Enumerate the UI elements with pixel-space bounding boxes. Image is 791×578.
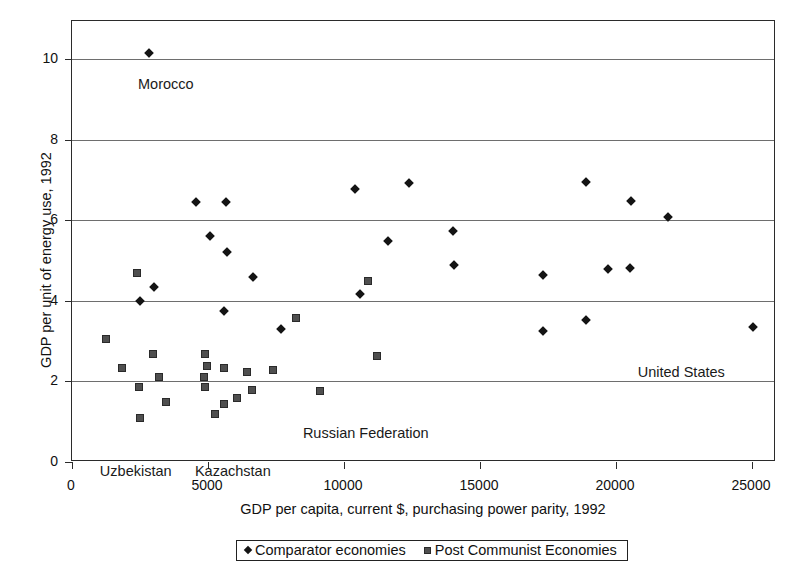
data-point — [248, 386, 256, 394]
y-axis-tick-label-2: 2 — [0, 373, 58, 387]
data-point — [149, 283, 159, 293]
data-point — [135, 383, 143, 391]
legend-label-comparator: Comparator economies — [255, 543, 406, 558]
gridline-y-10 — [72, 59, 774, 60]
data-point — [581, 177, 591, 187]
data-point — [748, 322, 758, 332]
data-point — [162, 398, 170, 406]
data-point — [200, 373, 208, 381]
data-point — [220, 364, 228, 372]
data-point — [203, 362, 211, 370]
y-axis-tick-0 — [65, 462, 72, 463]
data-point — [316, 387, 324, 395]
chart-legend: Comparator economies Post Communist Econ… — [236, 540, 628, 561]
data-point — [149, 350, 157, 358]
y-axis-tick-8 — [65, 140, 72, 141]
legend-label-post-communist: Post Communist Economies — [435, 543, 617, 558]
data-point — [625, 263, 635, 273]
legend-item-post-communist[interactable]: Post Communist Economies — [424, 543, 617, 558]
data-point — [201, 383, 209, 391]
x-axis-tick-10000 — [344, 462, 345, 469]
data-point — [102, 335, 110, 343]
data-point — [603, 264, 613, 274]
y-axis-tick-4 — [65, 301, 72, 302]
data-point — [355, 289, 365, 299]
data-point — [404, 178, 414, 188]
data-point — [211, 410, 219, 418]
annotation-united-states: United States — [638, 365, 725, 380]
scatter-chart-figure: GDP per unit of energy use, 1992 Morocco… — [0, 0, 791, 578]
data-point — [276, 324, 286, 334]
square-marker-icon — [424, 547, 431, 554]
data-point — [269, 366, 277, 374]
data-point — [205, 231, 215, 241]
data-point — [155, 373, 163, 381]
x-axis-annotation-uzbekistan: Uzbekistan — [100, 464, 172, 479]
y-axis-title-wrapper: GDP per unit of energy use, 1992 — [18, 20, 42, 461]
x-axis-tick-label-0: 0 — [36, 478, 106, 492]
data-point — [220, 400, 228, 408]
x-axis-tick-25000 — [752, 462, 753, 469]
plot-area: MoroccoRussian FederationUnited States — [71, 20, 775, 461]
data-point — [222, 247, 232, 257]
y-axis-tick-10 — [65, 59, 72, 60]
data-point — [626, 196, 636, 206]
data-point — [191, 197, 201, 207]
y-axis-tick-label-8: 8 — [0, 132, 58, 146]
data-point — [581, 315, 591, 325]
data-point — [243, 368, 251, 376]
data-point — [538, 270, 548, 280]
data-point — [449, 260, 459, 270]
data-point — [201, 350, 209, 358]
data-point — [133, 269, 141, 277]
y-axis-tick-label-10: 10 — [0, 51, 58, 65]
x-axis-tick-0 — [72, 462, 73, 469]
x-axis-tick-label-20000: 20000 — [580, 478, 650, 492]
annotation-russian-federation: Russian Federation — [303, 426, 429, 441]
x-axis-annotation-kazachstan: Kazachstan — [195, 464, 271, 479]
x-axis-tick-label-15000: 15000 — [444, 478, 514, 492]
data-point — [136, 414, 144, 422]
data-point — [118, 364, 126, 372]
y-axis-tick-label-4: 4 — [0, 293, 58, 307]
x-axis-tick-label-25000: 25000 — [716, 478, 786, 492]
x-axis-tick-15000 — [480, 462, 481, 469]
data-point — [221, 197, 231, 207]
y-axis-tick-label-0: 0 — [0, 454, 58, 468]
data-point — [292, 314, 300, 322]
data-point — [144, 48, 154, 58]
data-point — [364, 277, 372, 285]
data-point — [350, 184, 360, 194]
y-axis-tick-6 — [65, 220, 72, 221]
data-point — [233, 394, 241, 402]
data-point — [135, 296, 145, 306]
y-axis-tick-label-6: 6 — [0, 212, 58, 226]
data-point — [373, 352, 381, 360]
x-axis-title: GDP per capita, current $, purchasing po… — [71, 501, 775, 517]
data-point — [538, 326, 548, 336]
data-point — [248, 272, 258, 282]
data-point — [448, 226, 458, 236]
legend-item-comparator[interactable]: Comparator economies — [245, 543, 406, 558]
data-point — [219, 306, 229, 316]
diamond-marker-icon — [244, 546, 252, 554]
x-axis-tick-label-10000: 10000 — [308, 478, 378, 492]
gridline-y-2 — [72, 381, 774, 382]
annotation-morocco: Morocco — [138, 77, 194, 92]
x-axis-tick-20000 — [616, 462, 617, 469]
y-axis-tick-2 — [65, 381, 72, 382]
data-point — [383, 236, 393, 246]
gridline-y-8 — [72, 140, 774, 141]
x-axis-tick-label-5000: 5000 — [172, 478, 242, 492]
gridline-y-4 — [72, 301, 774, 302]
